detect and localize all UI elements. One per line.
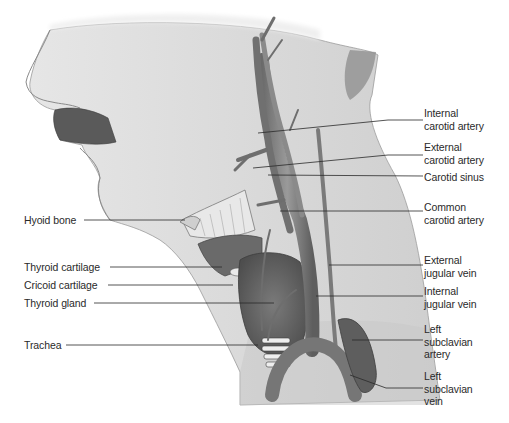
- label-internal-jugular-vein: Internal jugular vein: [424, 285, 477, 310]
- label-cricoid-cartilage: Cricoid cartilage: [24, 279, 98, 292]
- label-external-jugular-vein: External jugular vein: [424, 254, 477, 279]
- label-carotid-sinus: Carotid sinus: [424, 171, 484, 184]
- label-trachea: Trachea: [24, 339, 61, 352]
- label-left-subclavian-vein: Left subclavian vein: [424, 370, 473, 408]
- label-left-subclavian-artery: Left subclavian artery: [424, 323, 473, 361]
- label-internal-carotid-artery: Internal carotid artery: [424, 107, 484, 132]
- label-hyoid-bone: Hyoid bone: [24, 214, 76, 227]
- label-common-carotid-artery: Common carotid artery: [424, 201, 484, 226]
- label-thyroid-gland: Thyroid gland: [24, 297, 86, 310]
- label-thyroid-cartilage: Thyroid cartilage: [24, 261, 100, 274]
- label-external-carotid-artery: External carotid artery: [424, 141, 484, 166]
